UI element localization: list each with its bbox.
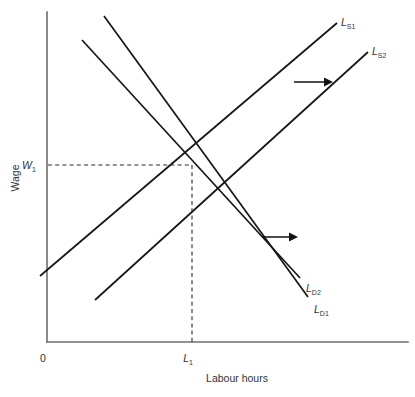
curve-label-ls1: LS1 (341, 16, 356, 30)
diagram-canvas: LS1 LS2 LD2 LD1 W1 L1 0 Wage Labour hour… (0, 0, 415, 397)
arrow-head-icon (289, 233, 298, 242)
supply-demand-figure: LS1 LS2 LD2 LD1 W1 L1 0 Wage Labour hour… (0, 0, 415, 397)
demand-curve-ld1 (104, 16, 308, 297)
origin-label: 0 (40, 352, 46, 364)
curve-label-ls2: LS2 (372, 45, 387, 59)
x-axis-label: Labour hours (206, 372, 268, 384)
supply-curve-ls2 (95, 52, 368, 300)
curve-label-ld2: LD2 (306, 282, 321, 296)
curve-label-ld1: LD1 (314, 303, 329, 317)
labour-marker-label: L1 (183, 352, 193, 366)
supply-shift-arrow (294, 78, 333, 87)
y-axis-label: Wage (9, 164, 21, 191)
wage-marker-label: W1 (22, 159, 36, 173)
